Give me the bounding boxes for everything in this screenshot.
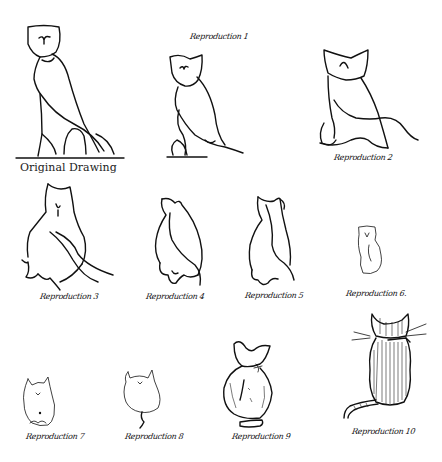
cat-drawing-icon <box>120 368 165 430</box>
cat-drawing-icon <box>20 375 60 430</box>
panel-reproduction-6 <box>355 225 390 277</box>
cat-drawing-icon <box>18 182 118 290</box>
cat-drawing-icon <box>355 225 390 277</box>
cat-drawing-icon <box>244 195 309 287</box>
panel-reproduction-5 <box>244 195 309 287</box>
panel-reproduction-4 <box>150 195 210 285</box>
panel-reproduction-9 <box>220 338 285 428</box>
panel-reproduction-7 <box>20 375 60 430</box>
reproduction-10-label: Reproduction 10 <box>351 427 416 436</box>
reproduction-4-label: Reproduction 4 <box>145 292 205 301</box>
panel-reproduction-1 <box>165 55 265 160</box>
reproduction-1-label: Reproduction 1 <box>189 32 249 41</box>
panel-reproduction-3 <box>18 182 118 290</box>
panel-original-drawing <box>14 24 124 159</box>
cat-drawing-icon <box>220 338 285 428</box>
cat-drawing-icon <box>150 195 210 285</box>
owl-cat-drawing-icon <box>316 48 426 153</box>
owl-drawing-icon <box>14 24 124 159</box>
reproduction-7-label: Reproduction 7 <box>25 432 85 441</box>
reproduction-8-label: Reproduction 8 <box>124 432 184 441</box>
reproduction-2-label: Reproduction 2 <box>333 153 393 162</box>
reproduction-9-label: Reproduction 9 <box>231 432 291 441</box>
reproduction-5-label: Reproduction 5 <box>244 291 304 300</box>
original-drawing-label: Original Drawing <box>20 161 117 174</box>
panel-reproduction-10 <box>340 310 440 420</box>
reproduction-6-label: Reproduction 6. <box>345 289 407 298</box>
panel-reproduction-2 <box>316 48 426 153</box>
reproduction-3-label: Reproduction 3 <box>39 292 99 301</box>
owl-drawing-icon <box>165 55 265 160</box>
panel-reproduction-8 <box>120 368 165 430</box>
cat-drawing-icon <box>340 310 440 420</box>
